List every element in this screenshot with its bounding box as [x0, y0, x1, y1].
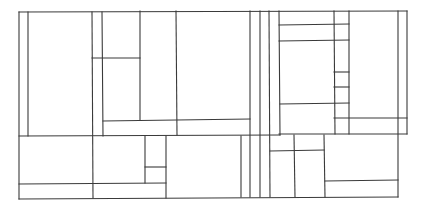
rectangle-subdivision-diagram — [0, 0, 426, 210]
line-bottom-border — [19, 197, 398, 199]
line-h-25 — [279, 24, 349, 25]
line-h-40 — [279, 40, 349, 41]
line-v-102 — [102, 12, 103, 136]
line-h-181 — [325, 180, 398, 181]
line-v-92 — [92, 12, 93, 198]
diagram-canvas — [0, 0, 426, 210]
line-h-151 — [270, 150, 324, 151]
line-v-294 — [294, 135, 295, 197]
line-v-269 — [269, 11, 270, 197]
line-v-176 — [176, 11, 177, 135]
line-h-103 — [280, 103, 349, 104]
line-v-279 — [279, 11, 280, 135]
line-v-324 — [324, 135, 325, 197]
line-h-184 — [19, 183, 166, 184]
